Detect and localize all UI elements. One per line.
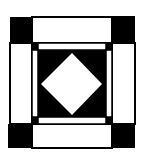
corner-square-top-right: [112, 16, 135, 43]
inner-frame-bottom: [38, 117, 106, 124]
border-strip-right: [112, 43, 135, 124]
inner-corner-top-right: [106, 43, 112, 50]
quilt-block: [0, 0, 149, 159]
inner-corner-bottom-right: [106, 117, 112, 124]
inner-frame-top: [38, 43, 106, 50]
inner-corner-top-left: [32, 43, 38, 50]
corner-square-top-left: [10, 17, 32, 43]
inner-frame-right: [106, 50, 112, 117]
inner-frame-left: [32, 50, 38, 117]
border-strip-top: [32, 17, 112, 43]
corner-square-bottom-right: [112, 123, 135, 148]
border-strip-bottom: [32, 124, 112, 148]
corner-square-bottom-left: [8, 124, 32, 148]
border-strip-left: [10, 43, 32, 124]
inner-corner-bottom-left: [32, 117, 38, 124]
